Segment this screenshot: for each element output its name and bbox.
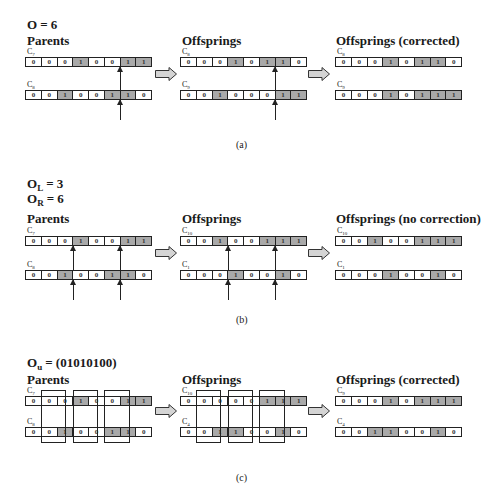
gene-cell: 0 xyxy=(26,428,42,436)
gene-cell: 1 xyxy=(228,271,244,279)
column-heading: Offsprings xyxy=(182,212,241,226)
gene-cell: 0 xyxy=(291,271,306,279)
gene-cell: 0 xyxy=(42,271,58,279)
gene-cell: 0 xyxy=(415,271,431,279)
gene-cell: 1 xyxy=(415,237,431,245)
gene-cell: 0 xyxy=(291,428,306,436)
gene-cell: 0 xyxy=(26,271,42,279)
gene-cell: 1 xyxy=(73,237,89,245)
gene-cell: 0 xyxy=(352,428,368,436)
gene-cell: 0 xyxy=(89,58,105,66)
right-arrow-icon xyxy=(308,67,330,81)
gene-cell: 1 xyxy=(213,237,229,245)
gene-cell: 1 xyxy=(368,428,384,436)
gene-cell: 0 xyxy=(213,271,229,279)
gene-cell: 1 xyxy=(58,271,74,279)
param-value: = 3 xyxy=(46,176,63,191)
gene-cell: 1 xyxy=(121,58,137,66)
gene-cell: 1 xyxy=(431,237,447,245)
column-heading: Offsprings xyxy=(182,34,241,48)
gene-cell: 0 xyxy=(399,271,415,279)
gene-cell: 1 xyxy=(136,237,151,245)
gene-cell: 0 xyxy=(73,91,89,99)
mask-box xyxy=(259,390,284,443)
gene-cell: 1 xyxy=(276,91,292,99)
param-symbol: O xyxy=(27,17,37,32)
gene-cell: 1 xyxy=(105,271,121,279)
gene-cell: 0 xyxy=(446,428,461,436)
mask-box xyxy=(104,390,129,443)
gene-cell: 0 xyxy=(181,91,197,99)
gene-cell: 0 xyxy=(73,271,89,279)
gene-cell: 1 xyxy=(383,428,399,436)
gene-cell: 0 xyxy=(368,397,384,405)
gene-cell: 1 xyxy=(431,397,447,405)
right-arrow-icon xyxy=(308,404,330,418)
gene-cell: 0 xyxy=(244,271,260,279)
gene-cell: 1 xyxy=(121,91,137,99)
parameter-label: O= 6 xyxy=(27,18,57,32)
param-subscript: R xyxy=(37,198,44,208)
gene-cell: 1 xyxy=(383,271,399,279)
chromosome-row: 00100111 xyxy=(335,236,462,246)
gene-cell: 0 xyxy=(228,91,244,99)
gene-cell: 0 xyxy=(399,237,415,245)
gene-cell: 1 xyxy=(383,91,399,99)
panel-caption: (c) xyxy=(236,473,247,483)
gene-cell: 0 xyxy=(197,91,213,99)
gene-cell: 0 xyxy=(26,91,42,99)
gene-cell: 0 xyxy=(352,91,368,99)
gene-cell: 0 xyxy=(58,237,74,245)
chromosome-row: 00010111 xyxy=(335,90,462,100)
right-arrow-icon xyxy=(155,246,177,260)
crossover-arrow-icon xyxy=(275,280,276,300)
gene-cell: 0 xyxy=(89,237,105,245)
gene-cell: 0 xyxy=(105,58,121,66)
column-heading: Parents xyxy=(27,373,69,387)
gene-cell: 0 xyxy=(136,91,151,99)
chromosome-row: 00010110 xyxy=(180,57,307,67)
gene-cell: 1 xyxy=(291,91,306,99)
gene-cell: 0 xyxy=(368,271,384,279)
gene-cell: 0 xyxy=(42,58,58,66)
column-heading: Offsprings (no correction) xyxy=(336,212,481,226)
gene-cell: 0 xyxy=(213,58,229,66)
gene-cell: 0 xyxy=(105,237,121,245)
gene-cell: 0 xyxy=(58,58,74,66)
gene-cell: 0 xyxy=(136,428,151,436)
gene-cell: 1 xyxy=(446,397,461,405)
param-value: = (01010100) xyxy=(45,355,116,370)
gene-cell: 0 xyxy=(181,428,197,436)
gene-cell: 0 xyxy=(336,397,352,405)
crossover-arrow-icon xyxy=(120,100,121,120)
chromosome-row: 00100110 xyxy=(25,270,152,280)
gene-cell: 0 xyxy=(181,237,197,245)
param-value: = 6 xyxy=(40,17,57,32)
gene-cell: 0 xyxy=(352,237,368,245)
gene-cell: 1 xyxy=(431,271,447,279)
gene-cell: 1 xyxy=(291,397,306,405)
gene-cell: 1 xyxy=(136,58,151,66)
gene-cell: 0 xyxy=(383,237,399,245)
gene-cell: 0 xyxy=(197,271,213,279)
gene-cell: 0 xyxy=(399,397,415,405)
gene-cell: 1 xyxy=(276,271,292,279)
gene-cell: 0 xyxy=(136,271,151,279)
gene-cell: 1 xyxy=(121,271,137,279)
right-arrow-icon xyxy=(155,404,177,418)
chromosome-row: 00010110 xyxy=(335,57,462,67)
gene-cell: 0 xyxy=(244,237,260,245)
column-heading: Offsprings xyxy=(182,373,241,387)
gene-cell: 1 xyxy=(276,237,292,245)
crossover-arrow-icon xyxy=(120,67,121,90)
crossover-arrow-icon xyxy=(275,67,276,90)
gene-cell: 0 xyxy=(336,58,352,66)
crossover-arrow-icon xyxy=(275,246,276,270)
gene-cell: 1 xyxy=(260,237,276,245)
gene-cell: 0 xyxy=(368,58,384,66)
chromosome-row: 00010111 xyxy=(335,396,462,406)
chromosome-row: 00100111 xyxy=(180,236,307,246)
mask-box xyxy=(41,390,66,443)
gene-cell: 0 xyxy=(368,91,384,99)
chromosome-row: 00100110 xyxy=(25,90,152,100)
